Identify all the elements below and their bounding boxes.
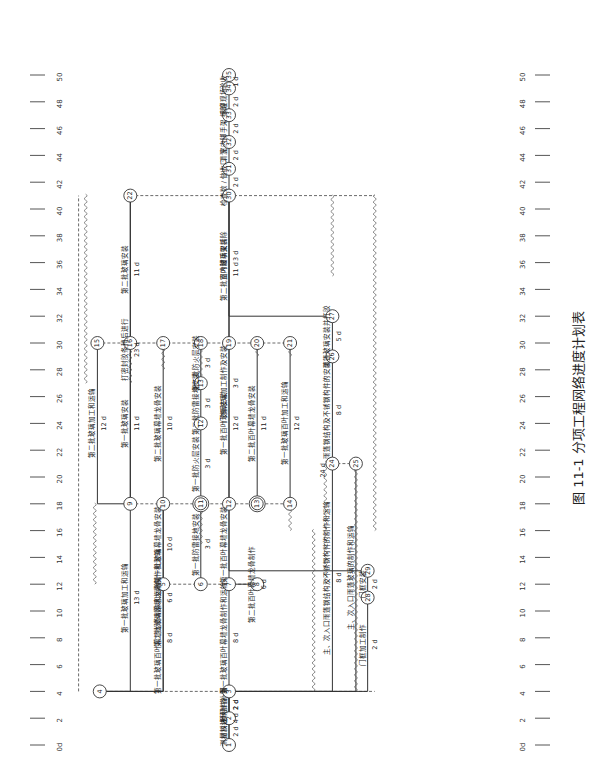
svg-text:13: 13: [253, 500, 261, 508]
activity-label: 第二批玻璃安装: [120, 245, 129, 294]
tick-label: 14: [519, 554, 527, 563]
activity-duration: 1 d: [232, 77, 240, 87]
activity-duration: 3 d: [204, 358, 212, 368]
event-node: 9: [124, 497, 137, 510]
tick-label: 38: [519, 233, 527, 242]
tick-label: 28: [56, 367, 64, 376]
event-node: 14: [284, 497, 297, 510]
event-node: 6: [194, 578, 207, 591]
activity-duration: 2 d: [232, 123, 240, 133]
activity-label: 第一批玻璃加工和运输: [120, 563, 129, 633]
activity-duration: 12 d: [100, 416, 108, 430]
svg-text:24: 24: [328, 459, 336, 467]
activity-label: 门框玻璃加工制作及安装: [219, 345, 228, 422]
activity-label: 验收: [219, 75, 228, 89]
svg-text:14: 14: [286, 500, 294, 508]
activity-duration: 2 d: [232, 97, 240, 107]
tick-label: 24: [56, 420, 64, 429]
activity-label: 第一批百叶幕墙龙骨安装: [219, 506, 228, 583]
activity-duration: 8 d: [335, 405, 343, 415]
figure-caption: 图 11-1 分项工程网络进度计划表: [571, 311, 586, 505]
activity-label: 第二批百叶幕墙龙骨制作: [247, 546, 256, 623]
tick-label: 20: [56, 475, 64, 484]
activity-duration: 2 d: [371, 639, 379, 649]
tick-label: 50: [56, 73, 64, 82]
tick-label: 18: [519, 501, 527, 510]
tick-label: 14: [56, 554, 64, 563]
tick-label: 36: [519, 260, 527, 269]
free-float-line: [331, 195, 334, 276]
activity-duration: 12 d: [232, 416, 240, 430]
network-schedule-figure: 0d24681012141618202224262830323436384042…: [0, 0, 606, 778]
activity-duration: 3 d: [204, 458, 212, 468]
tick-label: 32: [56, 314, 64, 323]
activity-duration: 3 d: [204, 398, 212, 408]
time-axis-right: 0d24681012141618202224262830323436384042…: [519, 73, 550, 752]
tick-label: 22: [519, 448, 527, 457]
tick-label: 16: [56, 528, 64, 537]
activity-arrow: [229, 196, 368, 571]
activity-duration: 8 d: [166, 633, 174, 643]
tick-label: 48: [56, 99, 64, 108]
activity-duration: 2 d: [371, 579, 379, 589]
tick-label: 44: [519, 152, 527, 161]
activity-duration: 23 d: [133, 342, 141, 356]
tick-label: 28: [519, 367, 527, 376]
activity-duration: 2 d: [232, 150, 240, 160]
tick-label: 16: [519, 528, 527, 537]
free-float-line: [312, 529, 315, 691]
activity-duration: 10 d: [166, 416, 174, 430]
activity-duration: 11 d: [133, 262, 141, 276]
activity-label: 第一批防雷接地安装: [191, 513, 200, 576]
tick-label: 44: [56, 152, 64, 161]
activity-label: 第二批防火层安装: [191, 335, 200, 391]
activity-duration: 24 d: [319, 463, 327, 477]
svg-text:17: 17: [159, 339, 167, 347]
tick-label: 42: [519, 180, 527, 189]
network-diagram: 0d24681012141618202224262830323436384042…: [0, 0, 606, 778]
event-node: 17: [157, 337, 170, 350]
free-float-line: [373, 195, 376, 531]
activity-label: 门框加工制作: [358, 624, 367, 666]
free-float-line: [93, 503, 96, 584]
tick-label: 22: [56, 448, 64, 457]
activity-duration: 5 d: [335, 331, 343, 341]
activity-duration: 6 d: [166, 592, 174, 602]
activity-duration: 3 d: [232, 251, 240, 261]
tick-label: 2: [519, 718, 527, 722]
tick-label: 10: [56, 609, 64, 618]
tick-label: 26: [519, 394, 527, 403]
activity-duration: 10 d: [166, 537, 174, 551]
activity-duration: 13 d: [133, 590, 141, 604]
activity-label: 第二批玻璃加工和运输: [87, 388, 96, 458]
svg-text:9: 9: [126, 502, 134, 506]
event-node: 20: [251, 337, 264, 350]
activity-labels: 测量放线2 d2 d预埋件补漏2 d材料进场准备4 d第一批玻璃百叶幕墙龙骨制作…: [87, 75, 378, 746]
tick-label: 36: [56, 260, 64, 269]
tick-label: 0d: [56, 743, 64, 752]
tick-label: 20: [519, 475, 527, 484]
activity-label: 主、次入口雨篷玻璃的制作和运输: [346, 525, 355, 630]
activity-duration: 2 d: [232, 726, 240, 736]
tick-label: 6: [519, 664, 527, 669]
event-node: 25: [349, 457, 362, 470]
tick-label: 4: [519, 691, 527, 696]
svg-text:25: 25: [352, 459, 360, 467]
tick-label: 46: [519, 126, 527, 135]
event-nodes: 1234567891011121314151617181920212224252…: [91, 69, 374, 752]
activity-label: 第一批防火层安装: [191, 436, 200, 492]
event-node: 22: [124, 189, 137, 202]
activity-label: 门框安装: [358, 570, 367, 598]
svg-text:6: 6: [197, 582, 205, 586]
event-node: 4: [93, 685, 106, 698]
tick-label: 18: [56, 501, 64, 510]
event-node: 11: [193, 496, 209, 512]
activity-duration: 3 d: [232, 378, 240, 388]
activity-duration: 11 d: [133, 416, 141, 430]
activity-duration: 2 d: [232, 700, 240, 710]
activity-label: 第一批玻璃幕墙龙骨安装: [153, 506, 162, 583]
tick-label: 40: [56, 207, 64, 216]
tick-label: 4: [56, 691, 64, 696]
tick-label: 42: [56, 180, 64, 189]
tick-label: 30: [56, 341, 64, 350]
